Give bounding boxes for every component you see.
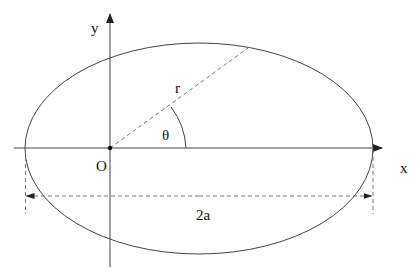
angle-arc (171, 107, 186, 148)
radius-line (110, 48, 248, 148)
radius-label: r (175, 80, 180, 96)
major-axis-label: 2a (196, 207, 211, 223)
origin-point (108, 146, 112, 150)
x-axis-label: x (400, 160, 408, 176)
angle-label: θ (162, 127, 169, 143)
origin-label: O (96, 158, 107, 174)
ellipse-diagram: y x O r θ 2a (0, 0, 420, 279)
y-axis-label: y (91, 20, 99, 36)
